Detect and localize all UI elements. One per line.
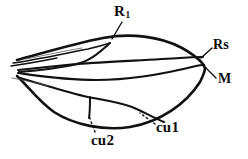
vein-label-cu2: cu2 <box>91 133 114 148</box>
subcosta-vein <box>13 43 110 63</box>
vein-label-r1-text: R <box>114 3 125 19</box>
wing-venation-drawing <box>0 0 248 159</box>
basal-stub-vein-lower <box>12 78 48 86</box>
leader-line-cu2 <box>89 116 95 132</box>
vein-label-r1: R1 <box>114 4 130 19</box>
vein-label-rs: Rs <box>213 38 229 52</box>
leader-line-rs <box>201 48 212 58</box>
vein-cu2 <box>89 97 90 118</box>
costal-margin-vein <box>17 36 205 68</box>
wing-diagram-figure: R1 Rs M cu1 cu2 <box>0 0 248 159</box>
vein-label-cu1: cu1 <box>156 120 179 135</box>
vein-label-r1-subscript: 1 <box>126 10 131 20</box>
vein-label-m: M <box>218 72 231 86</box>
